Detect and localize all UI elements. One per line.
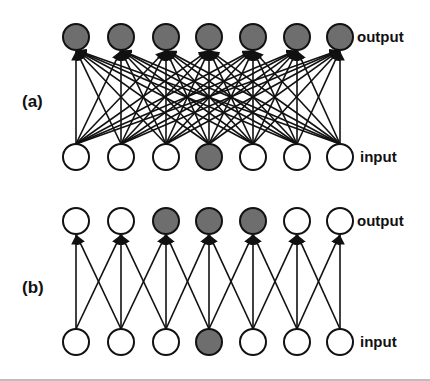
panel-b-locally-connected: (b) output input [22,208,404,355]
input-node-empty [153,144,179,170]
output-node-shaded [153,24,179,50]
input-node-empty [327,329,353,355]
input-node-empty [240,144,266,170]
input-node-shaded [196,144,222,170]
output-node-shaded [196,24,222,50]
output-node-shaded [153,208,179,234]
output-node-shaded [240,208,266,234]
input-node-empty [63,144,89,170]
output-node-shaded [108,24,134,50]
panel-a-label: (a) [22,92,43,111]
input-node-empty [240,329,266,355]
input-node-empty [153,329,179,355]
output-node-shaded [284,24,310,50]
input-node-empty [108,329,134,355]
output-node-shaded [63,24,89,50]
panel-b-output-label: output [357,212,404,229]
input-node-empty [327,144,353,170]
output-node-empty [284,208,310,234]
panel-a-input-label: input [360,148,397,165]
panel-a-fully-connected: (a) output input [22,24,404,170]
input-node-empty [108,144,134,170]
network-diagram: (a) output input (b) output input [0,0,430,381]
panel-a-output-label: output [357,28,404,45]
input-node-empty [284,144,310,170]
output-node-empty [327,208,353,234]
panel-a-edges [76,50,340,144]
output-node-shaded [196,208,222,234]
panel-b-input-label: input [360,333,397,350]
panel-b-nodes [63,208,353,355]
input-node-shaded [196,329,222,355]
output-node-shaded [327,24,353,50]
output-node-shaded [240,24,266,50]
panel-b-edges [76,235,340,329]
output-node-empty [63,208,89,234]
output-node-empty [108,208,134,234]
panel-b-label: (b) [22,278,44,297]
input-node-empty [63,329,89,355]
input-node-empty [284,329,310,355]
